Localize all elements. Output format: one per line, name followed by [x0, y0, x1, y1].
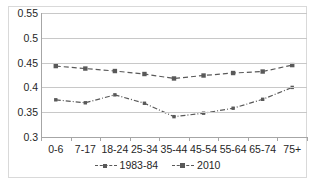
legend-entry-2010[interactable]: 2010 [172, 160, 220, 171]
x-tick-label-45-54: 45-54 [190, 143, 217, 155]
data-point-2010-65-74 [260, 69, 264, 73]
chart-legend: 1983-842010 [0, 160, 315, 171]
data-point-1983-84-65-74 [261, 98, 264, 101]
gridline-0.55 [41, 13, 307, 14]
x-tick-label-18-24: 18-24 [101, 143, 128, 155]
y-tick-label-0.55: 0.55 [18, 8, 38, 18]
data-point-2010-45-54 [201, 73, 205, 77]
legend-swatch-1983-84 [95, 161, 117, 170]
x-tick-mark [41, 137, 42, 141]
x-tick-mark [248, 137, 249, 141]
x-tick-label-25-34: 25-34 [131, 143, 158, 155]
data-point-2010-0-6 [54, 64, 58, 68]
x-tick-label-7-17: 7-17 [75, 143, 96, 155]
y-axis-tick-labels: 0.30.350.40.450.50.55 [9, 0, 38, 185]
x-tick-mark [71, 137, 72, 141]
y-tick-label-0.5: 0.5 [23, 33, 38, 43]
legend-marker-icon [103, 164, 107, 168]
x-tick-mark [100, 137, 101, 141]
data-point-1983-84-55-64 [231, 107, 234, 110]
gridline-0.4 [41, 87, 307, 88]
series-2010 [54, 63, 295, 81]
x-axis-line [41, 137, 307, 138]
gridline-0.35 [41, 112, 307, 113]
y-tick-label-0.45: 0.45 [18, 58, 38, 68]
legend-entry-1983-84[interactable]: 1983-84 [95, 160, 159, 171]
gridline-0.45 [41, 63, 307, 64]
data-point-2010-18-24 [113, 69, 117, 73]
legend-marker-icon [180, 163, 185, 168]
x-tick-label-65-74: 65-74 [249, 143, 276, 155]
data-point-1983-84-0-6 [54, 98, 57, 101]
legend-label-1983-84: 1983-84 [120, 160, 159, 171]
data-point-2010-35-44 [172, 76, 176, 80]
data-point-1983-84-7-17 [84, 101, 87, 104]
y-axis-line [41, 13, 42, 138]
x-tick-mark [159, 137, 160, 141]
x-tick-label-75+: 75+ [283, 143, 301, 155]
x-tick-mark [189, 137, 190, 141]
chart-figure: 0.30.350.40.450.50.55 0-67-1718-2425-343… [0, 0, 315, 185]
y-tick-label-0.3: 0.3 [23, 132, 38, 142]
x-tick-label-55-64: 55-64 [220, 143, 247, 155]
x-tick-mark [277, 137, 278, 141]
x-tick-mark [307, 137, 308, 141]
y-tick-label-0.35: 0.35 [18, 107, 38, 117]
data-point-1983-84-25-34 [143, 102, 146, 105]
data-point-2010-7-17 [83, 66, 87, 70]
data-point-1983-84-18-24 [113, 93, 116, 96]
x-tick-label-35-44: 35-44 [161, 143, 188, 155]
data-point-2010-55-64 [231, 71, 235, 75]
legend-swatch-2010 [172, 161, 194, 170]
x-tick-mark [218, 137, 219, 141]
x-tick-label-0-6: 0-6 [48, 143, 63, 155]
legend-label-2010: 2010 [197, 160, 220, 171]
data-point-2010-25-34 [142, 72, 146, 76]
gridline-0.5 [41, 38, 307, 39]
data-point-1983-84-35-44 [172, 115, 175, 118]
series-lines [41, 13, 307, 137]
plot-area [41, 13, 307, 137]
x-tick-mark [130, 137, 131, 141]
series-1983-84 [54, 86, 294, 119]
y-tick-label-0.4: 0.4 [23, 82, 38, 92]
